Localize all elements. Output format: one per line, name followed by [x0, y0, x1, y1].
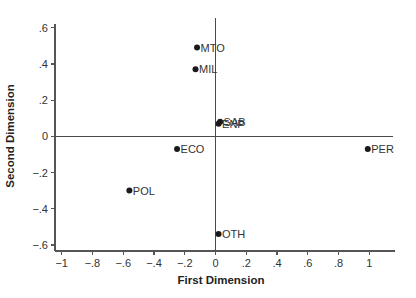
point-marker	[365, 146, 371, 152]
x-tick-label: 1	[366, 257, 372, 269]
point-marker	[194, 45, 200, 51]
y-tick-label: .2	[39, 94, 48, 106]
x-tick-label: −.2	[177, 257, 193, 269]
point-label: OTH	[222, 228, 245, 240]
y-tick-label: −.4	[32, 203, 48, 215]
point-marker	[174, 146, 180, 152]
point-marker	[216, 121, 222, 127]
y-tick-label: 0	[42, 130, 48, 142]
point-marker	[126, 188, 132, 194]
data-point-per: PER	[365, 143, 394, 155]
mds-scatter-chart: .6.4.20−.2−.4−.6−1−.8−.6−.4−.20.2.4.6.81…	[0, 0, 416, 298]
x-tick-label: .8	[334, 257, 343, 269]
point-label: POL	[133, 185, 155, 197]
data-points: MTOMILSABENPECOPERPOLOTH	[126, 42, 394, 240]
data-point-mto: MTO	[194, 42, 225, 54]
y-tick-label: .4	[39, 58, 48, 70]
point-label: MTO	[201, 42, 226, 54]
point-marker	[193, 66, 199, 72]
point-label: ENP	[222, 118, 245, 130]
y-axis-title: Second Dimension	[4, 84, 16, 188]
x-tick-label: 0	[212, 257, 218, 269]
y-tick-label: −.6	[32, 239, 48, 251]
x-tick-label: −.8	[85, 257, 101, 269]
x-axis-title: First Dimension	[178, 274, 265, 286]
point-marker	[216, 231, 222, 237]
point-label: MIL	[199, 63, 217, 75]
x-tick-label: .6	[303, 257, 312, 269]
x-tick-label: .2	[242, 257, 251, 269]
x-tick-label: −1	[55, 257, 68, 269]
data-point-mil: MIL	[193, 63, 218, 75]
point-label: PER	[371, 143, 394, 155]
data-point-eco: ECO	[174, 143, 205, 155]
y-tick-label: −.2	[32, 167, 48, 179]
data-point-pol: POL	[126, 185, 155, 197]
x-tick-label: .4	[272, 257, 281, 269]
x-tick-label: −.4	[146, 257, 162, 269]
data-point-oth: OTH	[216, 228, 246, 240]
y-tick-label: .6	[39, 22, 48, 34]
x-tick-label: −.6	[115, 257, 131, 269]
point-label: ECO	[181, 143, 205, 155]
axes: .6.4.20−.2−.4−.6−1−.8−.6−.4−.20.2.4.6.81	[32, 22, 395, 269]
